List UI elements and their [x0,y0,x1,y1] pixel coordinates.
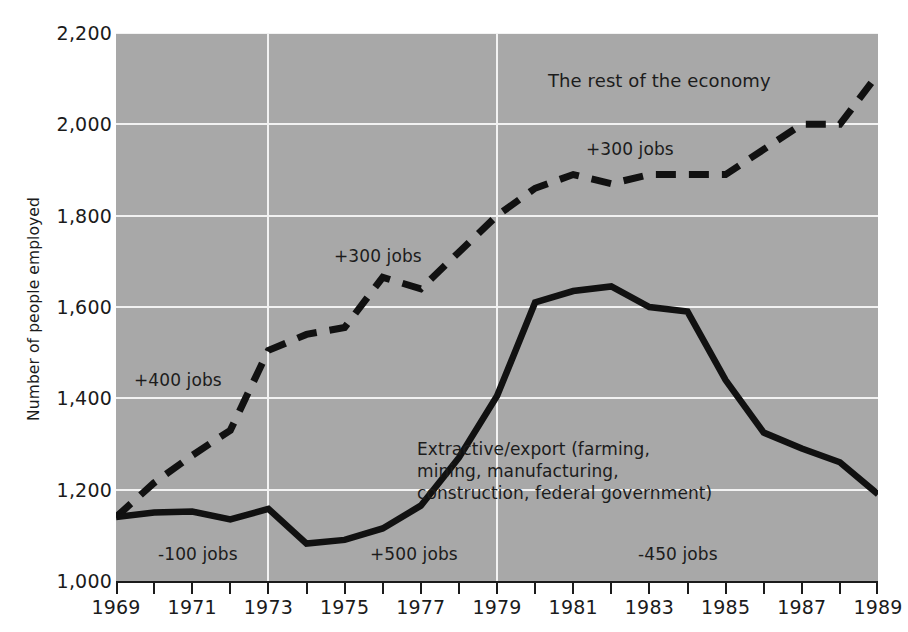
x-axis-tick [267,583,269,594]
x-axis-tick [725,583,727,594]
x-axis-tick [153,583,155,594]
y-axis-tick-labels: 2,2002,0001,8001,6001,4001,2001,000 [12,0,112,632]
x-axis-tick-label: 1987 [777,596,826,618]
x-axis-tick [534,583,536,594]
x-axis-tick [801,583,803,594]
annotation-extractive-line-3: construction, federal government) [417,482,712,504]
x-axis-tick [382,583,384,594]
x-axis-tick [610,583,612,594]
x-axis-tick [116,583,118,594]
x-axis-tick-label: 1983 [625,596,674,618]
x-axis-tick [229,583,231,594]
plot-area: The rest of the economy +300 jobs +300 j… [116,33,878,581]
y-axis-tick-label: 1,400 [20,387,112,409]
x-axis: 1969197119731975197719791981198319851987… [116,581,878,582]
x-axis-tick-label: 1977 [396,596,445,618]
x-axis-tick [458,583,460,594]
y-axis-tick-label: 1,800 [20,205,112,227]
y-axis-tick-label: 2,000 [20,113,112,135]
annotation-rest-of-economy: The rest of the economy [548,69,771,92]
x-axis-tick-label: 1985 [701,596,750,618]
x-axis-tick [648,583,650,594]
annotation-plus-300-jobs-mid: +300 jobs [334,245,422,267]
y-axis-tick-label: 1,600 [20,296,112,318]
annotation-minus-450-jobs: -450 jobs [638,543,718,565]
employment-line-chart: Number of people employed 2,2002,0001,80… [0,0,908,632]
y-axis-tick-label: 2,200 [20,22,112,44]
x-axis-tick [572,583,574,594]
annotation-extractive-line-2: mining, manufacturing, [417,460,712,482]
x-axis-tick [496,583,498,594]
x-axis-tick [876,583,878,594]
annotation-plus-500-jobs: +500 jobs [370,543,458,565]
x-axis-tick [191,583,193,594]
annotation-extractive-line-1: Extractive/export (farming, [417,438,712,460]
x-axis-tick-label: 1973 [244,596,293,618]
x-axis-tick-label: 1989 [853,596,902,618]
annotation-plus-300-jobs-upper: +300 jobs [586,138,674,160]
x-axis-tick [420,583,422,594]
annotation-minus-100-jobs: -100 jobs [158,543,238,565]
y-axis-tick-label: 1,000 [20,570,112,592]
annotation-plus-400-jobs: +400 jobs [134,369,222,391]
x-axis-tick-label: 1979 [472,596,521,618]
annotation-extractive-export: Extractive/export (farming, mining, manu… [417,438,712,504]
x-axis-tick [687,583,689,594]
x-axis-tick-label: 1975 [320,596,369,618]
x-axis-tick-label: 1981 [549,596,598,618]
series-line-extractive-export [116,286,878,543]
x-axis-tick [344,583,346,594]
x-axis-tick [306,583,308,594]
x-axis-tick [763,583,765,594]
x-axis-tick-label: 1971 [168,596,217,618]
y-axis-tick-label: 1,200 [20,479,112,501]
x-axis-tick [839,583,841,594]
x-axis-tick-label: 1969 [91,596,140,618]
